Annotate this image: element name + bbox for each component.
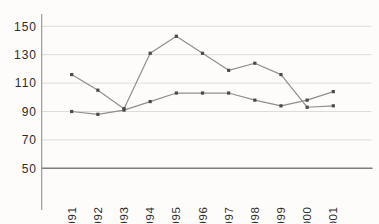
- y-axis-label: 90: [22, 105, 37, 119]
- x-axis-label: 2000: [301, 207, 313, 224]
- x-axis-label: 1994: [144, 206, 156, 223]
- data-point-marker: [175, 35, 178, 38]
- gridlines: [42, 26, 373, 168]
- y-axis-label: 50: [22, 162, 37, 176]
- x-axis-label: 1995: [170, 207, 182, 224]
- y-axis-label: 150: [14, 20, 37, 34]
- x-axis-label: 1993: [118, 207, 130, 224]
- line-chart: 5070901101301501991199219931994199519961…: [0, 0, 379, 223]
- data-point-marker: [227, 69, 230, 72]
- data-point-marker: [306, 106, 309, 109]
- series-2-line-series: [70, 90, 335, 116]
- x-axis-label: 1992: [92, 207, 104, 224]
- data-point-marker: [306, 99, 309, 102]
- data-point-marker: [175, 91, 178, 94]
- x-axis-labels: 1991199219931994199519961997199819992000…: [66, 206, 340, 223]
- data-point-marker: [253, 62, 256, 65]
- y-axis-label: 70: [22, 133, 37, 147]
- x-axis-label: 1999: [275, 207, 287, 224]
- data-point-marker: [279, 104, 282, 107]
- data-point-marker: [253, 99, 256, 102]
- x-axis-label: 1991: [66, 207, 78, 224]
- data-point-marker: [332, 104, 335, 107]
- series-1-polyline: [72, 36, 334, 108]
- series-2-polyline: [72, 92, 334, 115]
- data-point-marker: [227, 91, 230, 94]
- data-point-marker: [122, 108, 125, 111]
- data-point-marker: [96, 113, 99, 116]
- y-axis-label: 130: [14, 48, 37, 62]
- x-axis-label: 1996: [197, 207, 209, 224]
- chart-canvas: 5070901101301501991199219931994199519961…: [0, 0, 379, 223]
- x-axis-label: 1998: [249, 207, 261, 224]
- x-axis-label: 1997: [223, 207, 235, 224]
- data-point-marker: [70, 110, 73, 113]
- data-point-marker: [332, 90, 335, 93]
- data-point-marker: [201, 52, 204, 55]
- data-point-marker: [70, 73, 73, 76]
- data-point-marker: [149, 100, 152, 103]
- data-point-marker: [96, 89, 99, 92]
- data-point-marker: [279, 73, 282, 76]
- data-point-marker: [201, 91, 204, 94]
- y-axis-label: 110: [15, 76, 37, 90]
- x-axis-label: 2001: [327, 207, 339, 224]
- data-point-marker: [149, 52, 152, 55]
- series-1-line-series: [70, 35, 335, 111]
- y-axis-labels: 507090110130150: [14, 20, 37, 176]
